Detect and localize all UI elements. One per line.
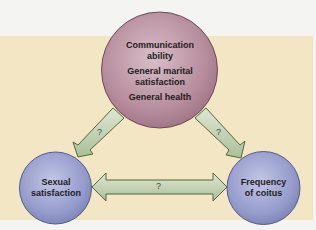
- label-line: Frequency: [227, 177, 300, 188]
- label-line: satisfaction: [20, 188, 92, 199]
- label-line: satisfaction: [105, 77, 215, 88]
- label-line: ability: [105, 51, 215, 62]
- label-line: Sexual: [20, 177, 92, 188]
- sexual-satisfaction-label: Sexual satisfaction: [20, 177, 92, 199]
- edge-label-left: ?: [97, 127, 102, 137]
- label-line: General health: [105, 92, 215, 103]
- edge-label-right: ?: [216, 127, 221, 137]
- diagram-canvas: Communication ability General marital sa…: [0, 0, 316, 230]
- edge-label-bottom: ?: [156, 181, 161, 191]
- label-line: Communication: [105, 40, 215, 51]
- top-node-label: Communication ability General marital sa…: [105, 40, 215, 103]
- label-line: General marital: [105, 66, 215, 77]
- label-line: of coitus: [227, 188, 300, 199]
- frequency-of-coitus-label: Frequency of coitus: [227, 177, 300, 199]
